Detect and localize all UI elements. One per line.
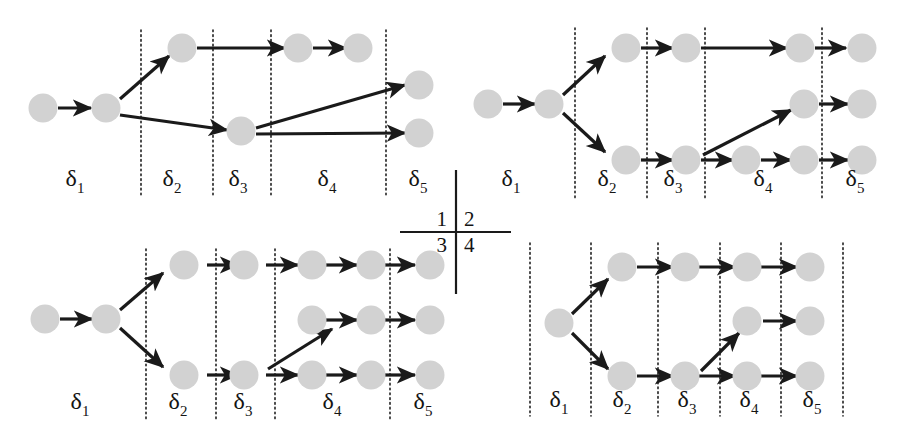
svg-text:δ4: δ4 (323, 388, 342, 419)
svg-text:δ2: δ2 (169, 388, 188, 419)
figure-canvas: δ1 δ2 δ3 δ4 δ5 (0, 0, 902, 443)
stage-label-sub: 4 (751, 401, 759, 417)
stage-label-sub: 1 (513, 180, 521, 196)
svg-text:δ2: δ2 (613, 386, 632, 417)
stage-label-sub: 3 (689, 401, 697, 417)
stage-label-base: δ (169, 388, 180, 414)
stage-label-sub: 1 (82, 403, 90, 419)
svg-text:δ1: δ1 (71, 388, 90, 419)
quadrant-label-2: 2 (464, 207, 475, 231)
stage-labels: δ1 δ2 δ3 δ4 δ5 (66, 165, 428, 196)
stage-label-base: δ (323, 388, 334, 414)
svg-text:δ3: δ3 (229, 165, 248, 196)
stage-label-base: δ (846, 165, 857, 191)
stage-label-base: δ (754, 165, 765, 191)
stage-label-sub: 5 (857, 180, 865, 196)
svg-text:δ2: δ2 (163, 165, 182, 196)
stage-label-base: δ (740, 386, 751, 412)
svg-text:δ3: δ3 (678, 386, 697, 417)
stage-label-sub: 5 (814, 401, 822, 417)
svg-text:δ2: δ2 (598, 165, 617, 196)
svg-text:δ4: δ4 (754, 165, 773, 196)
stage-label-base: δ (229, 165, 240, 191)
stage-label-sub: 5 (425, 403, 433, 419)
stage-label-base: δ (66, 165, 77, 191)
stage-label-base: δ (664, 165, 675, 191)
stage-label-base: δ (234, 388, 245, 414)
panel-top-right: δ1 δ2 δ3 δ4 δ5 (451, 0, 902, 221)
stage-label-base: δ (613, 386, 624, 412)
stage-label-base: δ (803, 386, 814, 412)
quadrant-label-3: 3 (437, 233, 448, 257)
stage-label-sub: 1 (561, 401, 569, 417)
svg-text:δ5: δ5 (414, 388, 433, 419)
svg-text:δ5: δ5 (803, 386, 822, 417)
panel-top-left: δ1 δ2 δ3 δ4 δ5 (0, 0, 451, 221)
stage-label-sub: 3 (240, 180, 248, 196)
stage-label-sub: 4 (765, 180, 773, 196)
svg-text:δ4: δ4 (318, 165, 337, 196)
stage-label-base: δ (163, 165, 174, 191)
stage-label-sub: 4 (329, 180, 337, 196)
stage-label-base: δ (598, 165, 609, 191)
svg-text:δ4: δ4 (740, 386, 759, 417)
stage-label-sub: 2 (624, 401, 632, 417)
stage-label-sub: 1 (77, 180, 85, 196)
graph-edges (572, 267, 797, 376)
graph-nodes (31, 251, 445, 390)
svg-text:δ1: δ1 (550, 386, 569, 417)
stage-label-sub: 2 (180, 403, 188, 419)
stage-labels: δ1 δ2 δ3 δ4 δ5 (71, 388, 433, 419)
svg-text:δ3: δ3 (234, 388, 253, 419)
stage-label-sub: 4 (334, 403, 342, 419)
stage-label-base: δ (318, 165, 329, 191)
stage-label-base: δ (550, 386, 561, 412)
quadrant-label-1: 1 (437, 207, 448, 231)
stage-label-sub: 2 (174, 180, 182, 196)
quadrant-label-4: 4 (464, 233, 475, 257)
stage-label-sub: 2 (609, 180, 617, 196)
stage-label-sub: 3 (245, 403, 253, 419)
graph-nodes (29, 34, 434, 148)
stage-label-base: δ (414, 388, 425, 414)
stage-label-sub: 3 (675, 180, 683, 196)
quadrant-legend-cross: 1 2 3 4 (398, 168, 513, 298)
stage-label-base: δ (71, 388, 82, 414)
panel-bottom-right: δ1 δ2 δ3 δ4 δ5 (451, 221, 902, 443)
svg-text:δ1: δ1 (66, 165, 85, 196)
stage-label-base: δ (678, 386, 689, 412)
panel-bottom-left: δ1 δ2 δ3 δ4 δ5 (0, 221, 451, 443)
